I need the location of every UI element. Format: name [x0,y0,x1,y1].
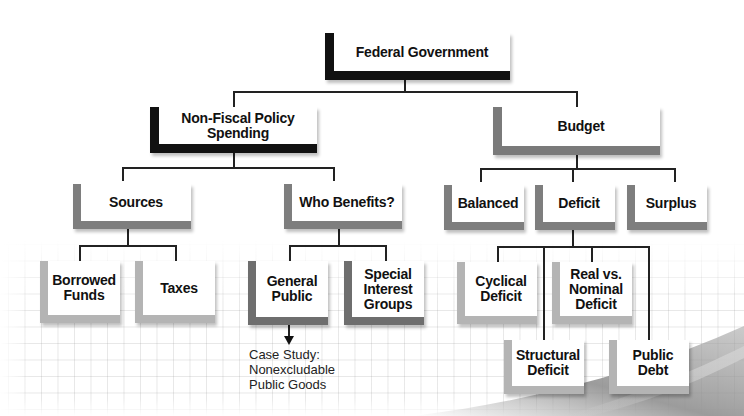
node-label: Budget [557,119,604,134]
connector [233,153,235,167]
node-label: Who Benefits? [299,195,394,210]
connector [480,168,482,182]
node-balanced: Balanced [444,185,524,230]
node-label: Structural Deficit [516,348,580,378]
connector [289,245,291,261]
node-borrowed-funds: Borrowed Funds [40,261,120,323]
node-label: Real vs. Nominal Deficit [569,267,623,312]
connector [591,246,593,262]
node-label: Special Interest Groups [364,267,413,312]
connector [576,91,578,107]
connector [576,155,578,168]
node-special-interest-groups: Special Interest Groups [344,261,424,325]
connector [122,167,334,169]
node-label: Taxes [160,281,198,296]
node-budget: Budget [493,107,660,155]
connector [122,167,124,181]
node-label: Public Debt [633,348,674,378]
node-non-fiscal-policy-spending: Non-Fiscal Policy Spending [150,107,317,153]
connector [127,229,129,245]
connector [289,245,386,247]
connector [385,245,387,261]
node-real-vs-nominal-deficit: Real vs. Nominal Deficit [552,262,632,324]
node-cyclical-deficit: Cyclical Deficit [457,262,537,324]
connector [333,167,335,181]
connector [497,246,649,248]
connector [233,91,577,93]
node-who-benefits: Who Benefits? [284,184,402,229]
connector [480,168,675,170]
node-structural-deficit: Structural Deficit [504,340,584,394]
node-label: Sources [109,195,163,210]
connector [543,246,545,340]
node-deficit: Deficit [535,185,615,230]
node-label: Non-Fiscal Policy Spending [181,111,294,141]
node-sources: Sources [73,184,191,229]
node-label: General Public [267,274,318,304]
connector [648,246,650,340]
node-label: Surplus [646,196,697,211]
node-label: Borrowed Funds [52,273,116,303]
connector [674,168,676,182]
node-public-debt: Public Debt [609,340,689,394]
node-taxes: Taxes [135,261,215,323]
arrow-down-icon [284,336,294,345]
node-federal-government: Federal Government [325,33,510,80]
connector [338,229,340,245]
connector [572,168,574,182]
node-label: Balanced [458,196,519,211]
node-surplus: Surplus [627,185,707,230]
grid-fade [0,240,30,416]
node-label: Cyclical Deficit [475,274,526,304]
node-general-public: General Public [248,261,328,325]
connector [497,246,499,262]
connector [175,245,177,261]
node-label: Deficit [558,196,599,211]
connector [572,230,574,246]
connector [404,80,406,91]
connector [79,245,176,247]
connector [79,245,81,261]
connector [233,91,235,107]
case-study-annotation: Case Study: Nonexcludable Public Goods [249,347,335,392]
node-label: Federal Government [356,45,489,60]
